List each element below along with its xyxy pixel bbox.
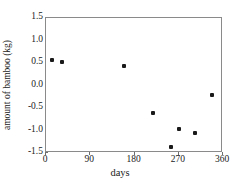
data-point bbox=[122, 64, 126, 68]
data-point bbox=[169, 145, 173, 149]
y-axis-tick-label: 0.5 bbox=[31, 57, 43, 67]
y-axis-tick-label: -1.0 bbox=[28, 125, 43, 135]
y-axis-tick-label: 1.5 bbox=[31, 12, 43, 22]
x-axis-tick-label: 360 bbox=[215, 155, 229, 165]
x-axis-tick-label: 180 bbox=[126, 155, 140, 165]
data-point bbox=[210, 93, 214, 97]
x-axis-tick-label: 90 bbox=[85, 155, 95, 165]
data-point bbox=[151, 111, 155, 115]
y-axis-tick-label: -1.5 bbox=[28, 147, 43, 157]
data-point bbox=[193, 131, 197, 135]
y-axis-tick-label: -0.5 bbox=[28, 102, 43, 112]
data-point bbox=[60, 60, 64, 64]
y-axis-label-container: amount of bamboo (kg) bbox=[0, 17, 14, 152]
scatter-chart-figure: amount of bamboo (kg) 1.51.00.50.0-0.5-1… bbox=[0, 0, 240, 185]
x-axis-label: days bbox=[0, 167, 240, 178]
plot-area bbox=[45, 17, 222, 152]
data-point bbox=[177, 127, 181, 131]
y-axis-tick-label: 1.0 bbox=[31, 35, 43, 45]
x-axis-tick-label: 0 bbox=[43, 155, 48, 165]
data-point bbox=[50, 58, 54, 62]
y-axis-tick-label: 0.0 bbox=[31, 80, 43, 90]
y-axis-label: amount of bamboo (kg) bbox=[2, 40, 12, 130]
x-axis-tick-label: 270 bbox=[171, 155, 185, 165]
